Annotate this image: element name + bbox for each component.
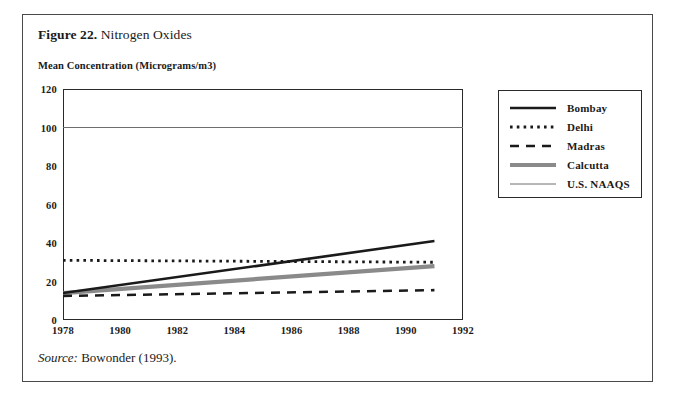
- source-citation: Bowonder (1993).: [78, 350, 177, 365]
- figure-number: Figure 22.: [38, 27, 97, 42]
- legend-item-delhi[interactable]: Delhi: [499, 117, 641, 136]
- y-axis-tick-labels: 020406080100120: [25, 89, 57, 320]
- legend-swatch-icon: [510, 178, 556, 190]
- y-tick-label: 40: [27, 238, 57, 249]
- series-line-delhi: [63, 260, 434, 262]
- x-tick-label: 1988: [324, 325, 374, 336]
- x-tick-label: 1980: [95, 325, 145, 336]
- legend-item-madras[interactable]: Madras: [499, 136, 641, 155]
- x-tick-label: 1990: [381, 325, 431, 336]
- chart-plot-area: [63, 89, 463, 320]
- legend-swatch-icon: [510, 159, 556, 171]
- series-line-calcutta: [63, 266, 434, 293]
- legend-item-calcutta[interactable]: Calcutta: [499, 155, 641, 174]
- y-tick-label: 0: [27, 315, 57, 326]
- legend-swatch-icon: [510, 102, 556, 114]
- x-tick-label: 1978: [38, 325, 88, 336]
- x-tick-label: 1984: [209, 325, 259, 336]
- chart-series-canvas: [63, 89, 463, 320]
- y-axis-title: Mean Concentration (Micrograms/m3): [38, 60, 216, 71]
- x-tick-label: 1982: [152, 325, 202, 336]
- legend-swatch-icon: [510, 121, 556, 133]
- figure-title: Nitrogen Oxides: [97, 27, 192, 42]
- x-axis-tick-labels: 19781980198219841986198819901992: [63, 325, 463, 341]
- x-tick-label: 1992: [438, 325, 488, 336]
- y-tick-label: 20: [27, 276, 57, 287]
- series-line-bombay: [63, 241, 434, 293]
- legend-label: Delhi: [567, 121, 593, 133]
- y-tick-label: 100: [27, 122, 57, 133]
- source-note: Source: Bowonder (1993).: [38, 350, 177, 366]
- legend-item-bombay[interactable]: Bombay: [499, 98, 641, 117]
- y-tick-label: 80: [27, 161, 57, 172]
- chart-legend: BombayDelhiMadrasCalcuttaU.S. NAAQS: [498, 90, 642, 198]
- legend-label: Madras: [567, 140, 605, 152]
- source-label: Source:: [38, 350, 78, 365]
- x-tick-label: 1986: [267, 325, 317, 336]
- y-tick-label: 60: [27, 199, 57, 210]
- legend-item-u-s-naaqs[interactable]: U.S. NAAQS: [499, 174, 641, 193]
- y-tick-label: 120: [27, 84, 57, 95]
- legend-label: Bombay: [567, 102, 607, 114]
- legend-swatch-icon: [510, 140, 556, 152]
- page-title: Figure 22. Nitrogen Oxides: [38, 27, 192, 43]
- legend-label: U.S. NAAQS: [567, 178, 630, 190]
- legend-label: Calcutta: [567, 159, 609, 171]
